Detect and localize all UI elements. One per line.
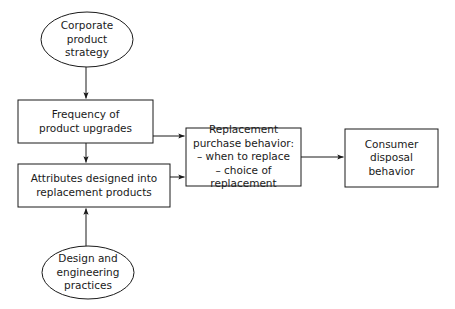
node-frequency-upgrades-shape (18, 100, 153, 143)
node-corporate-strategy-shape (41, 12, 133, 67)
node-design-practices-shape (42, 246, 134, 299)
node-attributes-shape (18, 164, 170, 207)
diagram-shapes-layer (0, 0, 455, 309)
node-consumer-disposal-shape (345, 129, 438, 187)
node-replacement-behavior-shape (186, 128, 301, 186)
flow-diagram: Corporate product strategy Frequency of … (0, 0, 455, 309)
